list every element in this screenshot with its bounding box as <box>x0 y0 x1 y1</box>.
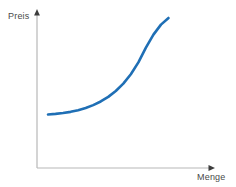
chart-canvas <box>0 0 236 187</box>
y-axis-label: Preis <box>8 11 30 21</box>
arrow-right-icon <box>209 165 216 171</box>
x-axis-label: Menge <box>197 172 226 182</box>
supply-curve-chart: Preis Menge <box>0 0 236 187</box>
series-line-angebotskurve <box>48 18 169 115</box>
arrow-up-icon <box>34 9 40 16</box>
